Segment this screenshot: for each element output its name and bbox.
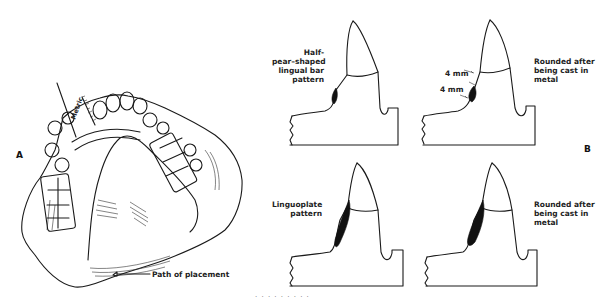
panel-letter-b: B <box>584 144 591 154</box>
framework-left <box>40 112 75 232</box>
cropped-caption: · · · · · · · · · <box>0 296 604 303</box>
section-bottom-rounded <box>425 163 537 286</box>
dimension-4mm-upper: 4 mm <box>445 69 468 78</box>
caption-fragment: · · · · · · · · · <box>255 296 310 301</box>
ruler-label: Metric <box>69 96 85 121</box>
figure-canvas: Metric <box>0 0 604 303</box>
label-rounded-bottom: Rounded after being cast in metal <box>534 200 595 227</box>
dimension-4mm-lower: 4 mm <box>440 85 463 94</box>
section-linguoplate-pattern <box>290 163 403 286</box>
label-linguoplate-pattern: Linguoplate pattern <box>272 200 322 218</box>
framework-right <box>143 113 202 193</box>
anterior-teeth <box>93 92 147 119</box>
label-rounded-top: Rounded after being cast in metal <box>534 57 595 84</box>
dental-cast-illustration: Metric <box>0 0 604 303</box>
panel-letter-a: A <box>16 150 23 160</box>
path-of-placement-label: Path of placement <box>152 270 229 279</box>
label-half-pear-pattern: Half- pear–shaped lingual bar pattern <box>272 48 324 84</box>
section-top-rounded <box>422 20 535 145</box>
